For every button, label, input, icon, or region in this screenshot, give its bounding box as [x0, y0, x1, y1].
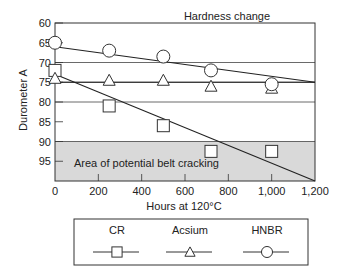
y-tick-label: 85 [39, 116, 51, 128]
x-tick-label: 800 [219, 185, 237, 197]
y-tick-label: 80 [39, 96, 51, 108]
circle-marker [265, 78, 278, 91]
y-tick-label: 95 [39, 155, 51, 167]
triangle-marker [157, 74, 169, 85]
square-marker [112, 247, 122, 257]
circle-marker [261, 246, 272, 257]
legend-label-acsium: Acsium [172, 224, 208, 236]
circle-marker [205, 64, 218, 77]
x-tick-label: 400 [132, 185, 150, 197]
square-marker [205, 145, 217, 157]
trend-line-hnbr [55, 47, 315, 83]
circle-marker [157, 50, 170, 63]
square-marker [157, 120, 169, 132]
data-points [49, 36, 279, 157]
gridlines [55, 63, 315, 142]
region-label: Area of potential belt cracking [74, 157, 219, 169]
y-tick-label: 60 [39, 17, 51, 29]
x-tick-label: 1,000 [258, 185, 286, 197]
x-axis-title: Hours at 120°C [146, 200, 221, 212]
x-tick-label: 200 [89, 185, 107, 197]
x-tick-label: 1,200 [301, 185, 329, 197]
y-axis-title: Durometer A [17, 68, 29, 130]
legend-label-hnbr: HNBR [251, 224, 282, 236]
x-tick-label: 600 [176, 185, 194, 197]
legend: CRAcsiumHNBR [74, 219, 308, 265]
y-tick-label: 90 [39, 136, 51, 148]
chart-title: Hardness change [184, 10, 270, 22]
square-marker [103, 100, 115, 112]
square-marker [266, 145, 278, 157]
hardness-chart: 6065707580859095 02004006008001,0001,200… [0, 0, 343, 279]
legend-label-cr: CR [109, 224, 125, 236]
circle-marker [103, 44, 116, 57]
triangle-marker [103, 74, 115, 85]
x-tick-label: 0 [52, 185, 58, 197]
circle-marker [49, 36, 62, 49]
